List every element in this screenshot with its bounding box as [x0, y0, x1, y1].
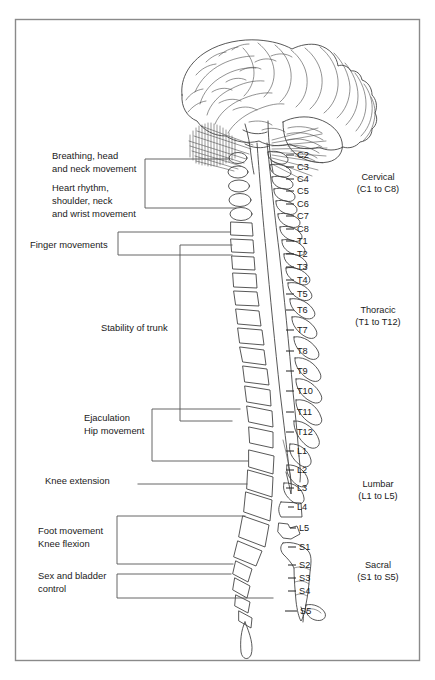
- level-label-t9: T9: [297, 366, 308, 376]
- level-label-t11: T11: [297, 407, 312, 417]
- level-label-l2: L2: [297, 465, 307, 475]
- region-name-thoracic: Thoracic: [360, 305, 396, 315]
- level-label-c5: C5: [297, 186, 309, 196]
- function-label-heart-rhythm-line-2: shoulder, neck: [52, 195, 113, 206]
- level-label-t1: T1: [297, 236, 308, 246]
- function-label-breathing-line-1: Breathing, head: [52, 150, 118, 161]
- level-label-c3: C3: [297, 162, 309, 172]
- region-range-lumbar: (L1 to L5): [358, 491, 397, 501]
- function-label-finger-movements-line-1: Finger movements: [30, 239, 108, 250]
- function-label-sex-bladder-line-1: Sex and bladder: [38, 570, 106, 581]
- level-label-s4: S4: [299, 586, 310, 596]
- level-label-t8: T8: [297, 346, 308, 356]
- level-label-l4: L4: [297, 502, 307, 512]
- function-label-foot-movement-line-1: Foot movement: [38, 525, 104, 536]
- level-label-s5: S5: [300, 606, 311, 616]
- function-label-heart-rhythm-line-3: and wrist movement: [52, 208, 136, 219]
- function-label-knee-extension-line-1: Knee extension: [45, 475, 110, 486]
- function-label-ejaculation-hip-line-2: Hip movement: [84, 425, 145, 436]
- spinal-cord-diagram: C2C3C4C5C6C7C8T1T2T3T4T5T6T7T8T9T10T11T1…: [0, 0, 435, 680]
- level-label-t7: T7: [297, 325, 308, 335]
- region-range-cervical: (C1 to C8): [357, 184, 399, 194]
- level-label-s1: S1: [299, 542, 310, 552]
- level-label-c8: C8: [297, 224, 309, 234]
- level-label-t4: T4: [297, 275, 308, 285]
- function-label-ejaculation-hip-line-1: Ejaculation: [84, 412, 130, 423]
- function-label-heart-rhythm-line-1: Heart rhythm,: [52, 182, 109, 193]
- function-label-finger-movements: Finger movements: [30, 239, 108, 250]
- level-label-t12: T12: [297, 427, 313, 437]
- region-range-thoracic: (T1 to T12): [355, 317, 400, 327]
- level-label-t3: T3: [297, 262, 308, 272]
- function-label-breathing-line-2: and neck movement: [52, 163, 137, 174]
- diagram-canvas: C2C3C4C5C6C7C8T1T2T3T4T5T6T7T8T9T10T11T1…: [0, 0, 435, 680]
- function-label-stability-of-trunk-line-1: Stability of trunk: [101, 322, 168, 333]
- function-label-knee-extension: Knee extension: [45, 475, 110, 486]
- function-label-foot-movement-line-2: Knee flexion: [38, 538, 90, 549]
- level-label-c4: C4: [297, 174, 309, 184]
- level-label-s3: S3: [299, 573, 310, 583]
- level-label-c7: C7: [297, 211, 309, 221]
- function-label-stability-of-trunk: Stability of trunk: [101, 322, 168, 333]
- level-label-t6: T6: [297, 305, 308, 315]
- level-label-l5: L5: [299, 523, 309, 533]
- function-label-sex-bladder-line-2: control: [38, 583, 66, 594]
- region-name-sacral: Sacral: [365, 560, 391, 570]
- region-name-cervical: Cervical: [361, 172, 394, 182]
- level-label-l3: L3: [297, 483, 307, 493]
- level-label-c2: C2: [297, 150, 309, 160]
- level-label-s2: S2: [299, 560, 310, 570]
- level-label-c6: C6: [297, 199, 309, 209]
- level-label-l1: L1: [297, 446, 307, 456]
- level-label-t2: T2: [297, 249, 308, 259]
- level-label-t10: T10: [297, 386, 313, 396]
- region-range-sacral: (S1 to S5): [357, 572, 398, 582]
- region-name-lumbar: Lumbar: [362, 479, 393, 489]
- level-label-t5: T5: [297, 289, 308, 299]
